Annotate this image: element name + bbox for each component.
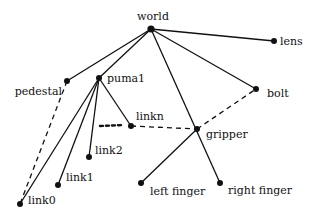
node-pedestal [64, 78, 70, 84]
node-linkn [128, 123, 134, 129]
label-right_finger: right finger [228, 184, 293, 197]
node-bolt [253, 86, 259, 92]
edge-puma1-linkn [99, 78, 131, 126]
node-left_finger [138, 180, 144, 186]
label-linkn: linkn [136, 110, 164, 123]
edge-world-right_finger [151, 29, 220, 183]
node-link2 [86, 154, 92, 160]
label-world: world [137, 10, 169, 23]
node-world [147, 25, 154, 32]
label-pedestal: pedestal [15, 85, 63, 98]
edge-linkn-gripper [131, 126, 197, 129]
edge-world-puma1 [99, 29, 151, 78]
label-puma1: puma1 [107, 72, 145, 85]
label-bolt: bolt [267, 87, 289, 100]
ellipsis-dots [100, 125, 123, 126]
label-left_finger: left finger [150, 185, 206, 198]
node-puma1 [96, 75, 102, 81]
label-lens: lens [280, 35, 303, 48]
label-link2: link2 [95, 144, 123, 157]
label-link0: link0 [28, 194, 56, 207]
node-link1 [55, 182, 61, 188]
node-lens [271, 38, 277, 44]
frame-tree-diagram: worldlenspedestalpuma1boltlinkngripperli… [0, 0, 316, 218]
node-gripper [194, 126, 200, 132]
label-link1: link1 [66, 171, 94, 184]
node-link0 [17, 201, 23, 207]
node-right_finger [217, 180, 223, 186]
edge-gripper-bolt [197, 89, 256, 129]
edge-gripper-left_finger [141, 129, 197, 183]
label-gripper: gripper [206, 128, 248, 141]
